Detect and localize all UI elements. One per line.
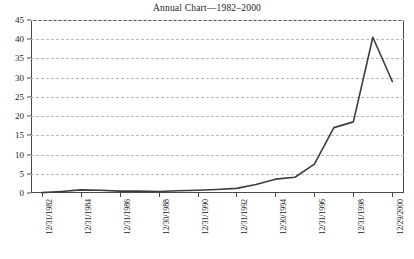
x-axis-tick-mark (314, 193, 315, 197)
x-axis-tick-label: 12/31/1998 (357, 199, 366, 234)
y-axis-tick-label: 35 (15, 53, 24, 63)
x-axis-tick-label: 12/31/1984 (84, 199, 93, 234)
y-axis: 051015202530354045 (0, 20, 31, 193)
y-axis-tick-label: 25 (15, 92, 24, 102)
figure-caption (4, 251, 410, 259)
x-axis-tick-mark (42, 193, 43, 197)
x-axis-tick-mark (120, 193, 121, 197)
y-axis-tick-label: 10 (15, 150, 24, 160)
x-axis-tick-label: 12/31/1990 (201, 199, 210, 234)
x-axis: 12/31/198212/31/198412/31/198612/30/1988… (31, 193, 404, 253)
x-axis-tick-mark (81, 193, 82, 197)
y-axis-tick-label: 5 (20, 169, 25, 179)
data-line-series (31, 20, 404, 193)
y-axis-tick-label: 15 (15, 130, 24, 140)
x-axis-tick-label: 12/30/1994 (279, 199, 288, 234)
y-axis-tick-label: 40 (15, 34, 24, 44)
y-axis-tick-label: 30 (15, 73, 24, 83)
y-axis-tick-label: 0 (20, 188, 25, 198)
chart-figure: Annual Chart—1982–2000 05101520253035404… (0, 0, 414, 259)
x-axis-tick-label: 12/31/1982 (45, 199, 54, 234)
x-axis-tick-mark (236, 193, 237, 197)
x-axis-tick-label: 12/31/1996 (318, 199, 327, 234)
y-axis-tick-label: 45 (15, 15, 24, 25)
chart-title: Annual Chart—1982–2000 (0, 3, 414, 13)
x-axis-tick-mark (159, 193, 160, 197)
x-axis-tick-mark (392, 193, 393, 197)
x-axis-tick-mark (275, 193, 276, 197)
x-axis-tick-label: 12/30/1988 (162, 199, 171, 234)
x-axis-tick-label: 12/31/1992 (240, 199, 249, 234)
x-axis-tick-mark (353, 193, 354, 197)
x-axis-tick-label: 12/31/1986 (123, 199, 132, 234)
y-axis-tick-label: 20 (15, 111, 24, 121)
plot-area (31, 20, 404, 193)
x-axis-tick-mark (198, 193, 199, 197)
x-axis-tick-label: 12/29/2000 (396, 199, 405, 234)
